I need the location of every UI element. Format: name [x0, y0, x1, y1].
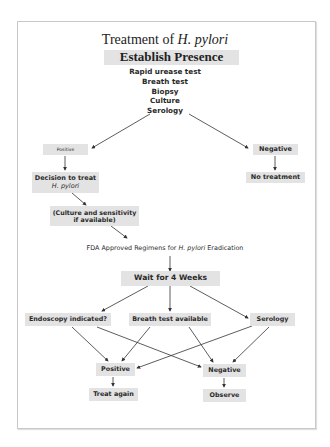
arrow-serology-to-positive: [137, 326, 252, 368]
line-decision-to-culture: [72, 193, 86, 205]
test-item: Culture: [0, 96, 330, 106]
negative-top-box: Negative: [253, 144, 298, 155]
no-treatment-box: No treatment: [246, 172, 305, 183]
endoscopy-box: Endoscopy indicated?: [25, 313, 111, 326]
test-item: Biopsy: [0, 87, 330, 97]
treat-again-box: Treat again: [89, 388, 138, 401]
diagram-title: Treatment of H. pylori: [0, 32, 330, 48]
decision-box: Decision to treat H. pylori: [32, 172, 99, 193]
arrow-to-positive-top: [92, 114, 150, 148]
wait-box: Wait for 4 Weeks: [121, 271, 220, 286]
test-item: Rapid urease test: [0, 67, 330, 77]
test-list: Rapid urease test Breath test Biopsy Cul…: [0, 67, 330, 116]
arrow-endoscopy-to-negative: [97, 327, 201, 367]
establish-presence-box: Establish Presence: [104, 50, 239, 65]
positive-bottom-box: Positive: [96, 363, 135, 376]
negative-bottom-box: Negative: [203, 364, 246, 377]
test-item: Breath test: [0, 77, 330, 87]
culture-sensitivity-box: (Culture and sensitivity if available): [50, 206, 139, 226]
positive-top-box: Positive: [43, 144, 88, 155]
arrow-endoscopy-to-positive: [72, 327, 108, 361]
arrow-wait-to-endoscopy: [102, 286, 148, 311]
arrow-to-negative-top: [189, 114, 248, 148]
observe-box: Observe: [203, 389, 246, 402]
arrow-serology-to-negative: [233, 327, 269, 362]
arrow-culture-to-fda: [111, 226, 127, 238]
fda-regimens-text: FDA Approved Regimens for H. pylori Erad…: [0, 244, 330, 252]
arrow-breath-to-positive: [122, 327, 150, 361]
test-item: Serology: [0, 106, 330, 116]
breath-test-box: Breath test available: [129, 313, 211, 326]
serology-box: Serology: [250, 313, 295, 326]
